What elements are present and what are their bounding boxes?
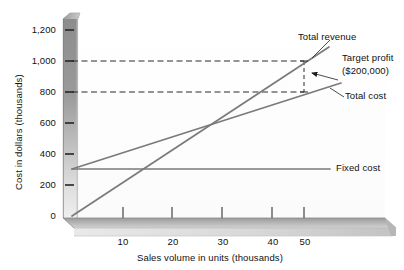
x-tick-label-10: 10 xyxy=(107,236,139,247)
y-tick-label-1200: 1,200 xyxy=(8,24,56,35)
label-total-cost: Total cost xyxy=(345,90,386,101)
y-axis-3d xyxy=(63,13,80,218)
y-axis-title: Cost in dollars (thousands) xyxy=(13,74,24,190)
x-axis-3d xyxy=(63,218,396,236)
plot-area xyxy=(78,13,385,218)
x-axis-title: Sales volume in units (thousands) xyxy=(115,252,305,263)
y-tick-label-0: 0 xyxy=(8,210,56,221)
x-tick-label-30: 30 xyxy=(207,236,239,247)
x-tick-label-50: 50 xyxy=(289,236,321,247)
label-target-profit-amount: ($200,000) xyxy=(342,65,389,76)
y-tick-label-1000: 1,000 xyxy=(8,55,56,66)
label-target-profit: Target profit xyxy=(342,52,393,63)
breakeven-chart: 1,200 1,000 800 600 400 200 0 10 20 30 4… xyxy=(0,0,404,270)
label-total-revenue: Total revenue xyxy=(298,31,356,42)
x-tick-label-40: 40 xyxy=(257,236,289,247)
label-fixed-cost: Fixed cost xyxy=(336,162,380,173)
x-tick-label-20: 20 xyxy=(157,236,189,247)
